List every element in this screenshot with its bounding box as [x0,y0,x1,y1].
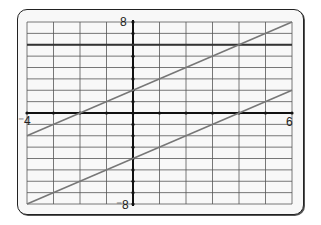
y-tick [131,123,134,126]
x-tick [184,111,187,114]
x-max-label: 6 [286,116,293,128]
x-tick [105,111,108,114]
y-tick [131,191,134,194]
x-tick [211,111,214,114]
y-tick [131,180,134,183]
y-tick [131,134,134,137]
y-tick [131,111,134,114]
y-tick [131,55,134,58]
y-tick [131,202,134,205]
x-tick [264,111,267,114]
x-tick [52,111,55,114]
y-min-label: ⁻8 [116,199,129,211]
y-tick [131,32,134,35]
x-min-label: ⁻4 [18,115,31,127]
y-tick [131,77,134,80]
y-tick [131,100,134,103]
y-tick [131,146,134,149]
y-max-label: 8 [120,16,127,28]
y-tick [131,66,134,69]
y-tick [131,168,134,171]
plot-area [0,0,321,225]
y-tick [131,20,134,23]
x-tick [158,111,161,114]
